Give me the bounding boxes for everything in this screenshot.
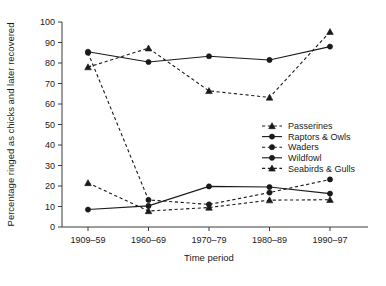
y-tick-label: 80 [45, 58, 55, 68]
data-point-raptors-and-owls-1 [146, 59, 151, 64]
legend-swatch-marker-raptors-and-owls [269, 134, 274, 139]
legend-item-passerines[interactable]: Passerines [262, 121, 333, 131]
y-tick-group: 0102030405060708090100 [40, 17, 62, 232]
data-point-seabirds-and-gulls-4 [327, 29, 334, 35]
y-tick-label: 40 [45, 140, 55, 150]
data-point-wildfowl-0 [85, 207, 90, 212]
y-tick-label: 90 [45, 38, 55, 48]
data-point-waders-2 [206, 202, 211, 207]
x-tick-label: 1980–89 [252, 235, 287, 245]
legend-label-passerines: Passerines [288, 121, 333, 131]
data-point-waders-4 [327, 177, 332, 182]
y-tick-label: 70 [45, 79, 55, 89]
legend-label-wildfowl: Wildfowl [288, 153, 322, 163]
x-tick-label: 1909–59 [70, 235, 105, 245]
data-point-passerines-3 [266, 197, 273, 203]
data-point-waders-1 [146, 197, 151, 202]
y-tick-label: 60 [45, 99, 55, 109]
data-point-wildfowl-2 [206, 184, 211, 189]
y-tick-label: 30 [45, 161, 55, 171]
data-point-wildfowl-3 [267, 184, 272, 189]
y-tick-label: 100 [40, 17, 55, 27]
data-point-raptors-and-owls-2 [206, 54, 211, 59]
legend-label-raptors-and-owls: Raptors & Owls [288, 132, 351, 142]
legend-label-waders: Waders [288, 142, 319, 152]
x-tick-group: 1909–591960–691970–791980–891990–97 [70, 227, 347, 245]
data-point-raptors-and-owls-4 [327, 44, 332, 49]
line-chart: 01020304050607080901001909–591960–691970… [0, 0, 386, 286]
chart-container: 01020304050607080901001909–591960–691970… [0, 0, 386, 286]
data-point-waders-3 [267, 190, 272, 195]
legend: PasserinesRaptors & OwlsWadersWildfowlSe… [262, 121, 356, 173]
data-point-raptors-and-owls-3 [267, 57, 272, 62]
data-point-seabirds-and-gulls-1 [145, 45, 152, 51]
legend-item-waders[interactable]: Waders [262, 142, 319, 152]
legend-label-seabirds-and-gulls: Seabirds & Gulls [288, 164, 356, 174]
series-raptors-and-owls [85, 44, 332, 65]
y-tick-label: 10 [45, 202, 55, 212]
data-point-seabirds-and-gulls-3 [266, 94, 273, 100]
data-point-wildfowl-4 [327, 191, 332, 196]
data-point-wildfowl-1 [146, 203, 151, 208]
x-tick-label: 1970–79 [191, 235, 226, 245]
y-axis-title: Percentage ringed as chicks and later re… [5, 23, 16, 227]
series-seabirds-and-gulls [85, 29, 334, 101]
legend-item-seabirds-and-gulls[interactable]: Seabirds & Gulls [262, 164, 356, 174]
legend-swatch-marker-wildfowl [269, 155, 274, 160]
y-tick-label: 0 [50, 222, 55, 232]
data-point-passerines-0 [85, 180, 92, 186]
legend-swatch-marker-waders [269, 145, 274, 150]
x-tick-label: 1990–97 [312, 235, 347, 245]
x-tick-label: 1960–69 [131, 235, 166, 245]
data-point-waders-0 [85, 50, 90, 55]
x-axis-title: Time period [184, 252, 234, 263]
y-tick-label: 50 [45, 120, 55, 130]
y-tick-label: 20 [45, 181, 55, 191]
legend-item-raptors-and-owls[interactable]: Raptors & Owls [262, 132, 351, 142]
legend-item-wildfowl[interactable]: Wildfowl [262, 153, 322, 163]
